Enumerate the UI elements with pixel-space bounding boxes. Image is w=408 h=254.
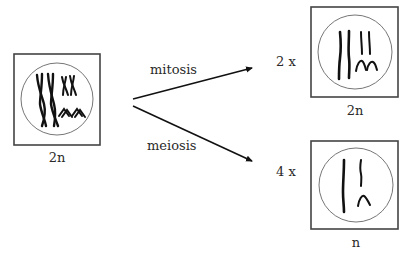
meiosis-multiplier: 4 x (276, 164, 296, 179)
mitosis-multiplier: 2 x (276, 54, 296, 69)
parent-cell-panel (14, 54, 100, 145)
meiosis-daughter-cell-panel (311, 141, 398, 229)
cell-division-diagram: 2n mitosis meiosis 2 x 2n 4 x n (0, 0, 408, 254)
meiosis-ploidy-label: n (352, 235, 361, 250)
meiosis-label: meiosis (147, 138, 197, 153)
meiosis-cell-frame (311, 141, 398, 229)
chromatid-large (343, 160, 344, 212)
mitosis-cell-frame (311, 7, 398, 97)
chromatid-small (360, 160, 361, 186)
mitosis-ploidy-label: 2n (347, 103, 364, 118)
chromatid-large-2 (349, 31, 350, 78)
mitosis-label: mitosis (150, 62, 197, 77)
chromatid-small-2 (369, 32, 370, 54)
parent-cell-frame (14, 54, 100, 145)
chromatid-small-1 (361, 32, 362, 54)
mitosis-daughter-cell-panel (311, 7, 398, 97)
parent-ploidy-label: 2n (49, 150, 66, 165)
